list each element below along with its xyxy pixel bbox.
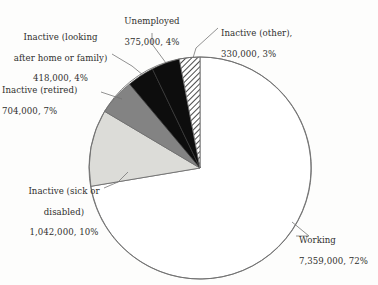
pie-label-inactive-sick-or-disabled: Inactive (sick or disabled) 1,042,000, 1…	[6, 176, 122, 237]
pie-label-inactive-retired-line1: Inactive (retired)	[2, 85, 77, 95]
pie-label-inactive-retired-line2: 704,000, 7%	[2, 106, 57, 116]
pie-label-working: Working 7,359,000, 72%	[299, 225, 377, 266]
pie-label-inactive-retired: Inactive (retired) 704,000, 7%	[2, 75, 106, 116]
pie-label-inactive-sick-line2: disabled)	[44, 207, 84, 217]
pie-label-inactive-other: Inactive (other), 330,000, 3%	[221, 18, 351, 59]
pie-label-inactive-other-line1: Inactive (other),	[221, 28, 292, 38]
pie-label-inactive-sick-line1: Inactive (sick or	[28, 186, 99, 196]
pie-label-working-line2: 7,359,000, 72%	[299, 256, 368, 266]
pie-label-working-line1: Working	[299, 235, 336, 245]
pie-label-inactive-home-line2: after home or family)	[14, 53, 108, 63]
pie-label-unemployed-line1: Unemployed	[124, 16, 179, 26]
pie-label-inactive-other-line2: 330,000, 3%	[221, 49, 276, 59]
pie-label-inactive-home-line1: Inactive (looking	[23, 32, 97, 42]
pie-label-unemployed-line2: 375,000, 4%	[124, 37, 179, 47]
pie-label-inactive-sick-line3: 1,042,000, 10%	[29, 227, 98, 237]
